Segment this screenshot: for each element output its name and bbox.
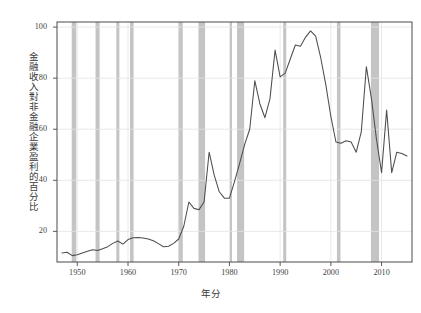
y-tick-label: 60: [15, 124, 47, 133]
y-tick-label: 80: [15, 73, 47, 82]
recession-band-group: [72, 22, 379, 262]
x-tick-label: 2000: [315, 268, 347, 277]
recession-band: [72, 22, 77, 262]
data-series-line: [62, 31, 407, 256]
y-tick-label: 100: [15, 22, 47, 31]
x-tick-label: 1970: [163, 268, 195, 277]
recession-band: [230, 22, 232, 262]
x-tick-label: 1950: [61, 268, 93, 277]
x-tick-label: 1960: [112, 268, 144, 277]
recession-band: [371, 22, 379, 262]
y-tick-label: 40: [15, 175, 47, 184]
x-tick-label: 1990: [264, 268, 296, 277]
x-tick-label: 2010: [366, 268, 398, 277]
y-tick-label: 20: [15, 226, 47, 235]
recession-band: [283, 22, 286, 262]
recession-band: [96, 22, 100, 262]
x-tick-label: 1980: [213, 268, 245, 277]
recession-band: [198, 22, 205, 262]
tick-mark-group: [53, 27, 382, 266]
recession-band: [237, 22, 244, 262]
chart-figure: 金融收入對非金融企業盈利的百分比 年分 20406080100195019601…: [0, 0, 421, 313]
chart-plot-area: [0, 0, 421, 313]
recession-band: [130, 22, 134, 262]
recession-band: [116, 22, 119, 262]
